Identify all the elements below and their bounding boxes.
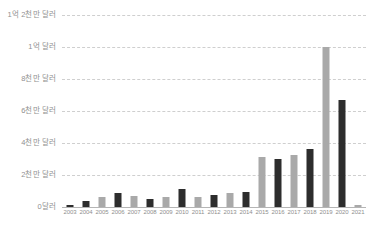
x-axis-tick-label: 2014 xyxy=(238,209,254,215)
bar[interactable] xyxy=(147,199,154,207)
bar-slot xyxy=(174,15,190,207)
y-axis-tick-label: 0달러 xyxy=(0,203,56,211)
bar[interactable] xyxy=(83,201,90,207)
bar-slot xyxy=(142,15,158,207)
y-axis-tick-label: 1억 달러 xyxy=(0,43,56,51)
bar-slot xyxy=(190,15,206,207)
bar[interactable] xyxy=(195,197,202,207)
bar-slot xyxy=(302,15,318,207)
bar-slot xyxy=(318,15,334,207)
bar[interactable] xyxy=(323,47,330,207)
bar-slot xyxy=(334,15,350,207)
x-axis-tick-label: 2008 xyxy=(142,209,158,215)
bar-slot xyxy=(206,15,222,207)
axis-baseline xyxy=(62,207,366,208)
bar[interactable] xyxy=(307,149,314,207)
x-axis-tick-label: 2013 xyxy=(222,209,238,215)
x-axis-tick-label: 2004 xyxy=(78,209,94,215)
x-axis-tick-label: 2018 xyxy=(302,209,318,215)
bar-slot xyxy=(126,15,142,207)
bar-slot xyxy=(270,15,286,207)
bar-slot xyxy=(286,15,302,207)
x-axis-tick-label: 2007 xyxy=(126,209,142,215)
y-axis-tick-label: 8천만 달러 xyxy=(0,75,56,83)
x-axis-tick-label: 2019 xyxy=(318,209,334,215)
bar-slot xyxy=(78,15,94,207)
bar-slot xyxy=(158,15,174,207)
bar-slot xyxy=(254,15,270,207)
bar[interactable] xyxy=(339,100,346,207)
bar[interactable] xyxy=(131,196,138,207)
x-axis-tick-label: 2006 xyxy=(110,209,126,215)
x-axis-tick-label: 2021 xyxy=(350,209,366,215)
bar-slot xyxy=(238,15,254,207)
x-axis-tick-label: 2015 xyxy=(254,209,270,215)
bar[interactable] xyxy=(291,155,298,207)
bar[interactable] xyxy=(99,197,106,207)
bar[interactable] xyxy=(179,189,186,207)
x-axis-tick-label: 2012 xyxy=(206,209,222,215)
bars-layer xyxy=(62,15,366,207)
y-axis-tick-label: 1억 2천만 달러 xyxy=(0,11,56,19)
bar[interactable] xyxy=(227,193,234,207)
x-axis-tick-label: 2005 xyxy=(94,209,110,215)
bar-slot xyxy=(222,15,238,207)
bar[interactable] xyxy=(67,205,74,207)
bar[interactable] xyxy=(275,159,282,207)
x-axis-tick-label: 2003 xyxy=(62,209,78,215)
bar[interactable] xyxy=(163,197,170,207)
bar-slot xyxy=(350,15,366,207)
bar[interactable] xyxy=(355,205,362,207)
x-axis-labels: 2003200420052006200720082009201020112012… xyxy=(62,209,366,223)
y-axis-tick-label: 6천만 달러 xyxy=(0,107,56,115)
bar-slot xyxy=(94,15,110,207)
y-axis-tick-label: 4천만 달러 xyxy=(0,139,56,147)
bar[interactable] xyxy=(115,193,122,207)
plot-area xyxy=(62,15,366,207)
x-axis-tick-label: 2011 xyxy=(190,209,206,215)
x-axis-tick-label: 2009 xyxy=(158,209,174,215)
bar-chart: 0달러2천만 달러4천만 달러6천만 달러8천만 달러1억 달러1억 2천만 달… xyxy=(0,0,372,233)
x-axis-tick-label: 2010 xyxy=(174,209,190,215)
bar[interactable] xyxy=(243,192,250,207)
bar-slot xyxy=(62,15,78,207)
x-axis-tick-label: 2017 xyxy=(286,209,302,215)
bar-slot xyxy=(110,15,126,207)
x-axis-tick-label: 2016 xyxy=(270,209,286,215)
y-axis-tick-label: 2천만 달러 xyxy=(0,171,56,179)
bar[interactable] xyxy=(211,195,218,207)
x-axis-tick-label: 2020 xyxy=(334,209,350,215)
bar[interactable] xyxy=(259,157,266,207)
